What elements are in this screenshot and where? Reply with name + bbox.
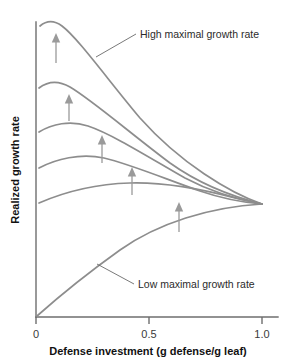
y-axis-title: Realized growth rate (9, 116, 21, 224)
annotation-low-growth: Low maximal growth rate (138, 278, 255, 290)
x-tick-label-1.0: 1.0 (254, 328, 269, 340)
arrow-curve-5 (175, 202, 183, 232)
curves-group (37, 22, 262, 317)
optimum-arrows-group (52, 33, 183, 232)
arrow-curve-4 (128, 167, 136, 195)
leader-line-high (96, 34, 136, 57)
x-axis-title: Defense investment (g defense/g leaf) (49, 345, 247, 357)
x-tick-label-0: 0 (33, 328, 39, 340)
leader-line-low (97, 264, 134, 284)
growth-rate-chart: High maximal growth rate Low maximal gro… (0, 0, 287, 364)
curve-1-high-growth (40, 22, 262, 205)
arrow-curve-1 (52, 33, 60, 63)
arrow-curve-2 (65, 94, 73, 121)
x-tick-label-0.5: 0.5 (141, 328, 156, 340)
curve-2 (39, 82, 262, 204)
curve-6-low-growth (37, 204, 262, 316)
annotation-high-growth: High maximal growth rate (140, 28, 259, 40)
figure-container: High maximal growth rate Low maximal gro… (0, 0, 287, 364)
